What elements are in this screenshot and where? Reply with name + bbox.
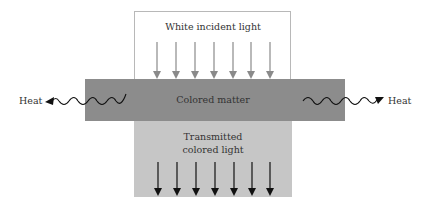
incident-light-label: White incident light <box>134 21 292 32</box>
heat-right-label: Heat <box>388 95 411 106</box>
transmitted-arrows <box>154 162 274 196</box>
heat-wave-right-icon <box>303 97 384 105</box>
colored-matter-label: Colored matter <box>134 94 292 105</box>
heat-wave-left-icon <box>45 94 126 105</box>
transmitted-light-label-line2: colored light <box>134 144 292 155</box>
incident-arrows <box>153 42 274 79</box>
transmitted-light-label-line1: Transmitted <box>134 131 292 142</box>
heat-left-label: Heat <box>19 95 42 106</box>
